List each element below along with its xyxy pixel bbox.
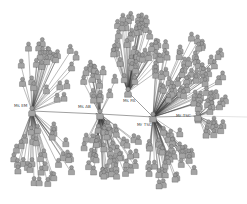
hub-node-ab[interactable]	[97, 109, 104, 119]
person-head	[115, 145, 119, 149]
hub-label-ab: Ms AB	[78, 104, 91, 109]
person-node-em[interactable]	[28, 126, 34, 135]
person-body	[132, 163, 138, 169]
nodes-layer	[11, 11, 229, 189]
person-head	[45, 55, 49, 59]
person-node-em[interactable]	[67, 44, 73, 53]
person-node-ab[interactable]	[133, 149, 139, 158]
person-head	[67, 153, 71, 157]
person-node-em[interactable]	[19, 77, 25, 86]
person-body	[162, 172, 168, 178]
person-body	[60, 155, 66, 161]
person-node-em[interactable]	[68, 166, 74, 175]
person-node-tsc1[interactable]	[163, 40, 169, 49]
person-head	[143, 48, 147, 52]
person-node-ab[interactable]	[100, 66, 106, 75]
person-node-pa[interactable]	[120, 13, 126, 22]
person-head	[96, 124, 100, 128]
person-body	[54, 97, 60, 103]
person-head	[221, 120, 225, 124]
person-head	[165, 155, 169, 159]
person-node-em[interactable]	[18, 59, 24, 68]
person-body	[91, 98, 97, 104]
person-node-em[interactable]	[61, 92, 67, 101]
person-body	[202, 81, 208, 87]
person-body	[188, 36, 194, 42]
person-node-em[interactable]	[60, 152, 66, 161]
person-head	[94, 138, 98, 142]
person-body	[186, 158, 192, 164]
person-body	[51, 175, 57, 181]
person-node-tsc1[interactable]	[178, 158, 184, 167]
person-node-tsc1[interactable]	[220, 71, 226, 80]
person-head	[157, 138, 161, 142]
person-head	[128, 32, 132, 36]
person-head	[196, 35, 200, 39]
edge-em-57	[32, 111, 63, 159]
person-node-ab[interactable]	[127, 150, 133, 159]
person-node-em[interactable]	[25, 42, 31, 51]
person-node-ab[interactable]	[86, 160, 92, 169]
person-node-tsc1[interactable]	[151, 160, 157, 169]
person-head	[134, 65, 138, 69]
person-head	[193, 51, 197, 55]
person-node-tsc1[interactable]	[188, 32, 194, 41]
hub-link-ab-tsc1	[100, 114, 153, 117]
person-body	[216, 104, 222, 110]
person-head	[39, 152, 43, 156]
person-node-em[interactable]	[54, 93, 60, 102]
person-body	[121, 77, 127, 83]
person-node-em[interactable]	[73, 51, 79, 60]
person-node-em[interactable]	[36, 177, 42, 186]
person-node-ab[interactable]	[83, 133, 89, 142]
person-head	[157, 180, 161, 184]
person-body	[100, 69, 106, 75]
person-head	[159, 70, 163, 74]
person-node-ab[interactable]	[81, 142, 87, 151]
person-node-em[interactable]	[69, 62, 75, 71]
person-node-tsc1[interactable]	[191, 165, 197, 174]
person-node-tsc1[interactable]	[160, 126, 166, 135]
person-node-em[interactable]	[64, 80, 70, 89]
person-node-ab[interactable]	[135, 135, 141, 144]
person-head	[195, 56, 199, 60]
person-body	[69, 66, 75, 72]
person-node-ab[interactable]	[107, 89, 113, 98]
person-head	[216, 50, 220, 54]
person-head	[34, 137, 38, 141]
person-head	[187, 149, 191, 153]
hub-label-tsc2: Mr TSC	[176, 113, 191, 118]
person-body	[13, 148, 19, 154]
person-head	[115, 170, 119, 174]
person-node-em[interactable]	[63, 138, 69, 147]
person-head	[172, 85, 176, 89]
person-head	[93, 64, 97, 68]
person-body	[36, 180, 42, 186]
person-head	[219, 124, 223, 128]
person-head	[30, 76, 34, 80]
person-head	[154, 61, 158, 65]
person-node-tsc1[interactable]	[177, 128, 183, 137]
person-body	[104, 134, 110, 140]
person-body	[101, 174, 107, 180]
person-head	[170, 137, 174, 141]
person-head	[23, 134, 27, 138]
person-head	[178, 142, 182, 146]
person-node-ab[interactable]	[112, 74, 118, 83]
person-node-em[interactable]	[57, 81, 63, 90]
person-head	[32, 81, 36, 85]
person-node-em[interactable]	[43, 85, 49, 94]
person-head	[57, 158, 61, 162]
person-node-ab[interactable]	[81, 75, 87, 84]
person-body	[151, 164, 157, 170]
person-head	[137, 14, 141, 18]
hub-label-pa: Ms PA	[123, 98, 135, 103]
person-head	[121, 13, 125, 17]
person-body	[124, 42, 130, 48]
person-body	[93, 142, 99, 148]
network-graph: Ms EM Ms AB Ms PA Mr TSC Mr TSC	[0, 0, 247, 204]
hub-node-tsc2[interactable]	[195, 111, 202, 121]
person-body	[139, 57, 145, 63]
person-node-ab[interactable]	[132, 159, 138, 168]
person-head	[92, 166, 96, 170]
